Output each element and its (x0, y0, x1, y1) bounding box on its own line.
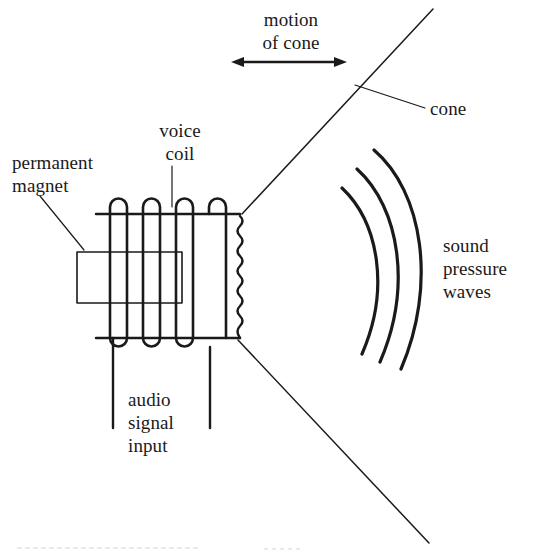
label-voice-coil: voice coil (140, 119, 220, 165)
label-audio-signal-input: audio signal input (128, 388, 212, 457)
scan-artifact (18, 548, 300, 549)
label-cone: cone (430, 97, 510, 120)
sound-wave-arc-inner (342, 188, 378, 354)
sound-wave-arcs (342, 150, 421, 369)
cone-shape (238, 9, 433, 543)
permanent-magnet-leader-line (40, 196, 84, 250)
coil-former-body (96, 214, 240, 338)
label-permanent-magnet: permanent magnet (12, 151, 142, 197)
loudspeaker-diagram: motion of cone cone voice coil permanent… (0, 0, 539, 555)
label-sound-pressure-waves: sound pressure waves (443, 234, 538, 303)
corrugated-surround (238, 216, 243, 338)
permanent-magnet-shape (77, 252, 182, 303)
motion-arrow-icon (231, 57, 347, 67)
label-motion-of-cone: motion of cone (231, 8, 351, 54)
cone-leader-line (355, 85, 425, 108)
voice-coil-windings (110, 199, 226, 347)
